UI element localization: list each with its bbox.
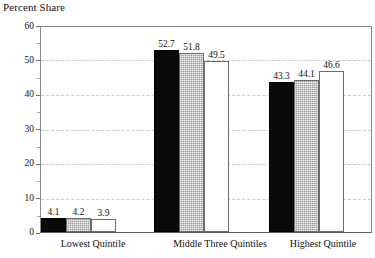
- bar-value-lowest-quintile-series-2: 4.2: [73, 208, 85, 218]
- chart-title: Percent Share: [3, 1, 65, 13]
- bar-value-middle-three-quintiles-series-3: 49.5: [208, 51, 225, 61]
- x-axis-label-highest-quintile: Highest Quintile: [258, 238, 375, 249]
- y-axis-label-50: 50: [4, 56, 34, 66]
- bar-lowest-quintile-series-2[interactable]: 4.2: [66, 218, 91, 232]
- bar-group-lowest-quintile: 4.1 4.2 3.9: [41, 27, 149, 232]
- bar-value-middle-three-quintiles-series-1: 52.7: [158, 40, 175, 50]
- bar-value-lowest-quintile-series-3: 3.9: [98, 209, 110, 219]
- bar-highest-quintile-series-1[interactable]: 43.3: [269, 82, 294, 232]
- y-axis-tick-0: [36, 233, 40, 234]
- bar-lowest-quintile-series-3[interactable]: 3.9: [91, 219, 116, 232]
- bar-middle-three-quintiles-series-3[interactable]: 49.5: [204, 61, 229, 232]
- y-axis-label-60: 60: [4, 22, 34, 32]
- bar-value-highest-quintile-series-1: 43.3: [273, 72, 290, 82]
- x-axis-label-lowest-quintile: Lowest Quintile: [28, 238, 158, 249]
- y-axis-label-0: 0: [4, 228, 34, 238]
- bar-highest-quintile-series-2[interactable]: 44.1: [294, 80, 319, 232]
- y-axis-label-30: 30: [4, 125, 34, 135]
- bar-value-highest-quintile-series-3: 46.6: [323, 61, 340, 71]
- bar-value-lowest-quintile-series-1: 4.1: [48, 208, 60, 218]
- y-axis-label-20: 20: [4, 159, 34, 169]
- bar-value-highest-quintile-series-2: 44.1: [298, 70, 315, 80]
- bar-middle-three-quintiles-series-1[interactable]: 52.7: [154, 50, 179, 232]
- bar-middle-three-quintiles-series-2[interactable]: 51.8: [179, 53, 204, 232]
- bar-group-middle-three-quintiles: 52.7 51.8 49.5: [154, 27, 264, 232]
- plot-area: 4.1 4.2 3.9 52.7 51.8 49.5 43.3: [40, 26, 372, 233]
- bar-group-highest-quintile: 43.3 44.1 46.6: [269, 27, 375, 232]
- y-axis-label-10: 10: [4, 194, 34, 204]
- bar-highest-quintile-series-3[interactable]: 46.6: [319, 71, 344, 232]
- y-axis-label-40: 40: [4, 90, 34, 100]
- bar-value-middle-three-quintiles-series-2: 51.8: [183, 43, 200, 53]
- bar-lowest-quintile-series-1[interactable]: 4.1: [41, 218, 66, 232]
- percent-share-bar-chart: Percent Share 60 50 40 30 20 10 0 4.1 4.…: [0, 0, 375, 258]
